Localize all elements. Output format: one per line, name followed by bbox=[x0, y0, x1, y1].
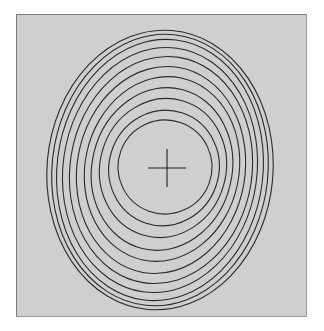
ellipse-ring-7 bbox=[53, 43, 268, 297]
ellipse-rings bbox=[35, 21, 285, 320]
center-cross-icon bbox=[148, 149, 186, 187]
ellipse-ring-5 bbox=[67, 62, 256, 276]
concentric-ellipses-diagram bbox=[0, 0, 324, 331]
ellipse-ring-1 bbox=[105, 107, 225, 227]
ellipse-ring-11 bbox=[35, 21, 285, 320]
ellipse-ring-4 bbox=[74, 73, 250, 266]
